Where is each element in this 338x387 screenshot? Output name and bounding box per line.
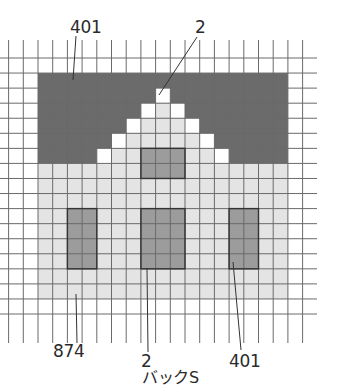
gable-light-cell (126, 148, 141, 163)
gable-light-cell (170, 118, 185, 133)
gable-white-cell (214, 148, 229, 163)
label-backstitch: バックS (142, 370, 199, 386)
gable-white-cell (200, 133, 215, 148)
gable-light-cell (141, 118, 156, 133)
label-874-bottom: 874 (53, 343, 85, 360)
leader-line (76, 294, 77, 343)
gable-light-cell (170, 133, 185, 148)
gable-light-cell (185, 148, 200, 163)
gable-light-cell (126, 133, 141, 148)
gable-white-cell (126, 118, 141, 133)
gable-white-cell (141, 103, 156, 118)
gable-light-cell (112, 148, 127, 163)
stitch-grid (0, 0, 338, 387)
gable-light-cell (156, 103, 171, 118)
cross-stitch-chart: 401 2 874 2 バックS 401 (0, 0, 338, 387)
gable-light-cell (141, 133, 156, 148)
label-401-top: 401 (70, 19, 102, 36)
label-2-top: 2 (195, 19, 206, 36)
gable-light-cell (185, 133, 200, 148)
gable-white-cell (156, 88, 171, 103)
gable-white-cell (97, 148, 112, 163)
gable-light-cell (156, 118, 171, 133)
gable-white-cell (185, 118, 200, 133)
gable-light-cell (156, 133, 171, 148)
gable-white-cell (170, 103, 185, 118)
gable-white-cell (112, 133, 127, 148)
label-401-bottom: 401 (229, 353, 261, 370)
gable-light-cell (200, 148, 215, 163)
